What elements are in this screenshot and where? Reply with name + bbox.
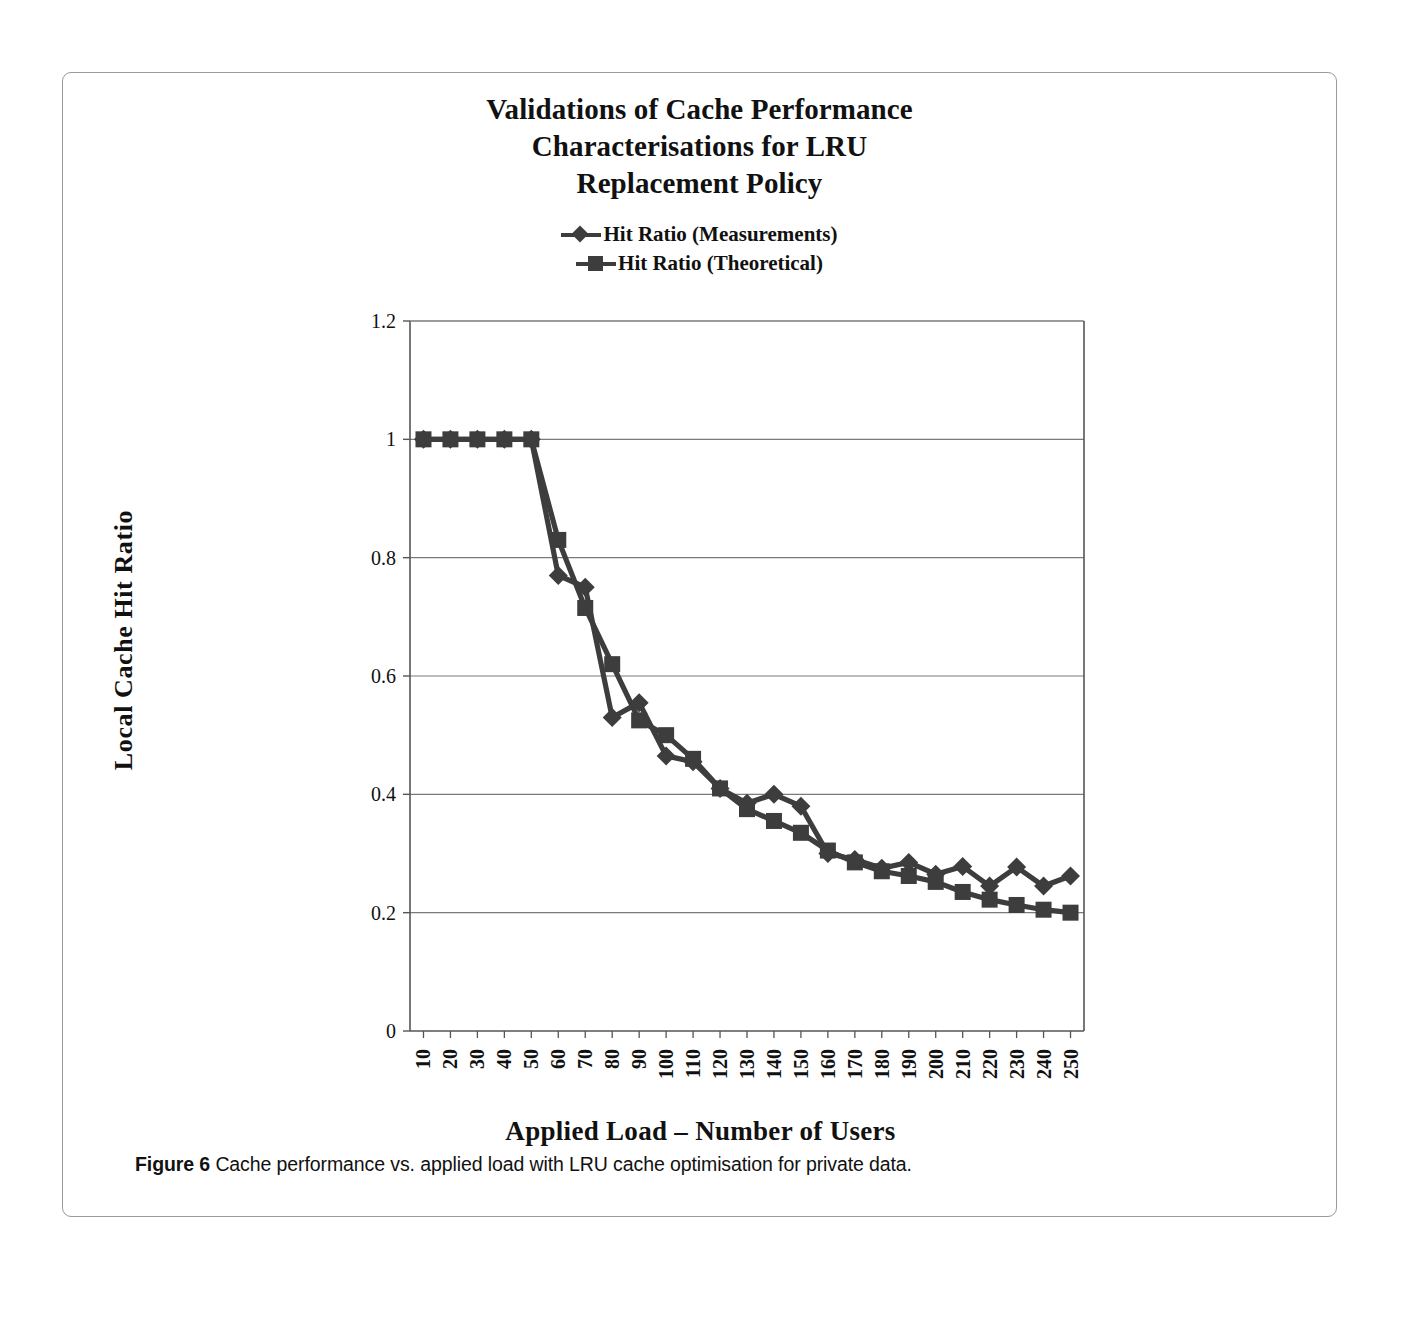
x-tick-label: 250 bbox=[1060, 1049, 1082, 1079]
data-point-square bbox=[955, 884, 971, 900]
data-point-square bbox=[1036, 902, 1052, 918]
x-tick-label: 140 bbox=[763, 1049, 785, 1079]
x-tick-label: 210 bbox=[952, 1049, 974, 1079]
data-point-square bbox=[1063, 905, 1079, 921]
y-tick-label: 0.2 bbox=[371, 902, 396, 924]
data-point-square bbox=[766, 813, 782, 829]
x-tick-label: 110 bbox=[682, 1049, 704, 1078]
y-tick-label: 0.8 bbox=[371, 547, 396, 569]
x-tick-label: 130 bbox=[736, 1049, 758, 1079]
x-tick-label: 40 bbox=[493, 1049, 515, 1069]
series-line-measurements bbox=[423, 439, 1070, 886]
x-tick-label: 230 bbox=[1006, 1049, 1028, 1079]
figure-frame: Validations of Cache Performance Charact… bbox=[62, 72, 1337, 1217]
chart-svg: 00.20.40.60.811.210203040506070809010011… bbox=[63, 73, 1338, 1218]
data-point-diamond bbox=[657, 746, 676, 765]
x-tick-label: 20 bbox=[439, 1049, 461, 1069]
x-tick-label: 160 bbox=[817, 1049, 839, 1079]
x-tick-label: 70 bbox=[574, 1049, 596, 1069]
y-tick-label: 0 bbox=[386, 1020, 396, 1042]
x-tick-label: 50 bbox=[520, 1049, 542, 1069]
data-point-square bbox=[1009, 897, 1025, 913]
data-point-diamond bbox=[1061, 866, 1080, 885]
x-tick-label: 30 bbox=[466, 1049, 488, 1069]
data-point-diamond bbox=[603, 708, 622, 727]
y-tick-label: 1 bbox=[386, 428, 396, 450]
x-tick-label: 200 bbox=[925, 1049, 947, 1079]
plot-area: Local Cache Hit Ratio 00.20.40.60.811.21… bbox=[63, 73, 1338, 1218]
x-tick-label: 170 bbox=[844, 1049, 866, 1079]
data-point-diamond bbox=[549, 566, 568, 585]
x-tick-label: 220 bbox=[979, 1049, 1001, 1079]
x-tick-label: 60 bbox=[547, 1049, 569, 1069]
x-tick-label: 180 bbox=[871, 1049, 893, 1079]
y-tick-label: 1.2 bbox=[371, 310, 396, 332]
y-tick-label: 0.6 bbox=[371, 665, 396, 687]
y-tick-label: 0.4 bbox=[371, 783, 396, 805]
x-tick-label: 100 bbox=[655, 1049, 677, 1079]
x-axis-title: Applied Load – Number of Users bbox=[63, 1116, 1338, 1147]
data-point-square bbox=[793, 825, 809, 841]
x-tick-label: 10 bbox=[412, 1049, 434, 1069]
x-tick-label: 190 bbox=[898, 1049, 920, 1079]
x-tick-label: 120 bbox=[709, 1049, 731, 1079]
data-point-square bbox=[604, 656, 620, 672]
x-tick-label: 80 bbox=[601, 1049, 623, 1069]
figure-caption: Figure 6 Cache performance vs. applied l… bbox=[135, 1153, 1265, 1176]
x-tick-label: 150 bbox=[790, 1049, 812, 1079]
x-tick-label: 240 bbox=[1033, 1049, 1055, 1079]
caption-label: Figure 6 bbox=[135, 1153, 210, 1175]
caption-text: Cache performance vs. applied load with … bbox=[210, 1153, 912, 1175]
x-tick-label: 90 bbox=[628, 1049, 650, 1069]
data-point-diamond bbox=[764, 785, 783, 804]
